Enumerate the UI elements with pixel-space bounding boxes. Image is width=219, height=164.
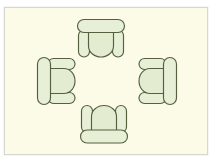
sofa-right[interactable] [139, 58, 177, 105]
furniture-layout-svg [0, 0, 219, 164]
sofa-top-left-arm [79, 30, 90, 57]
sofa-right-bottom-arm [139, 93, 166, 104]
sofa-bottom[interactable] [81, 106, 128, 144]
sofa-top-right-arm [113, 30, 124, 57]
sofa-left-top-arm [48, 59, 75, 70]
sofa-right-top-arm [139, 59, 166, 70]
sofa-left-back [38, 58, 51, 105]
sofa-bottom-back [81, 130, 128, 143]
sofa-right-seat-cushion [139, 69, 166, 94]
sofa-bottom-seat-cushion [92, 106, 117, 133]
sofa-left-bottom-arm [48, 93, 75, 104]
sofa-bottom-right-arm [116, 106, 127, 133]
diagram-canvas [0, 0, 219, 164]
sofa-top-back [78, 20, 125, 33]
sofa-left-seat-cushion [48, 69, 75, 94]
sofa-right-back [164, 58, 177, 105]
sofa-top[interactable] [78, 20, 125, 58]
sofa-top-seat-cushion [89, 30, 114, 57]
sofa-left[interactable] [38, 58, 76, 105]
sofa-bottom-left-arm [82, 106, 93, 133]
